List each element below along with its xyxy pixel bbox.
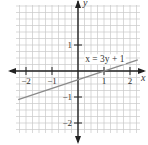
y-axis-arrow-down-icon — [75, 136, 81, 144]
x-tick-label: −1 — [47, 76, 57, 86]
y-tick-label: 1 — [68, 40, 73, 50]
y-tick-label: −2 — [62, 118, 72, 128]
axes — [8, 0, 146, 144]
y-tick-label: −1 — [62, 92, 72, 102]
x-tick-label: 2 — [128, 76, 133, 86]
x-axis-arrow-left-icon — [8, 68, 16, 74]
x-tick-label: −2 — [21, 76, 31, 86]
coordinate-plane: −2−1121−1−2 x y x = 3y + 1 — [0, 0, 148, 145]
x-axis-label: x — [140, 72, 146, 83]
y-axis-arrow-up-icon — [75, 0, 81, 8]
y-axis-label: y — [82, 0, 88, 8]
equation-label: x = 3y + 1 — [85, 54, 124, 64]
x-tick-label: 1 — [102, 76, 107, 86]
